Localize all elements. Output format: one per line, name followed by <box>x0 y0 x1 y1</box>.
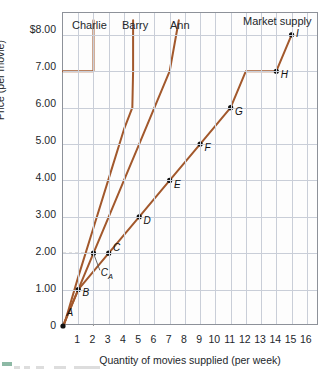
chart-figure: Price (per movie) $8.00 7.00 6.00 5.00 4… <box>0 0 326 374</box>
curve-label-ann: Ann <box>170 20 190 31</box>
y-tick-label: 4.00 <box>8 172 56 183</box>
gridline-vertical <box>292 13 293 324</box>
y-tick-label: $8.00 <box>8 24 56 35</box>
gridline-horizontal <box>63 290 317 291</box>
point-label-f: F <box>204 143 210 153</box>
gridline-horizontal <box>63 108 317 109</box>
page-artifact-text <box>14 366 100 369</box>
data-point-a <box>60 323 65 328</box>
x-tick-label: 16 <box>296 334 316 345</box>
y-tick-label: 1.00 <box>8 283 56 294</box>
gridline-vertical <box>185 13 186 324</box>
curve-label-charlie: Charlie <box>72 20 107 31</box>
gridline-vertical <box>261 13 262 324</box>
gridline-vertical <box>246 13 247 324</box>
y-tick-label: 2.00 <box>8 246 56 257</box>
gridline-vertical <box>139 13 140 324</box>
gridline-horizontal <box>63 144 317 145</box>
gridline-horizontal <box>63 35 317 36</box>
point-label-b: B <box>83 288 90 298</box>
gridline-vertical <box>154 13 155 324</box>
gridline-horizontal <box>63 253 317 254</box>
gridline-vertical <box>276 13 277 324</box>
gridline-vertical <box>215 13 216 324</box>
gridline-horizontal <box>63 71 317 72</box>
y-tick-label: 7.00 <box>8 61 56 72</box>
gridline-horizontal <box>63 180 317 181</box>
y-tick-label: 6.00 <box>8 98 56 109</box>
y-tick-label: 5.00 <box>8 135 56 146</box>
point-label-e: E <box>174 180 181 190</box>
x-axis-title: Quantity of movies supplied (per week) <box>62 354 318 366</box>
curve-ann <box>63 20 179 326</box>
gridline-vertical <box>200 13 201 324</box>
y-tick-label: 0 <box>8 320 56 331</box>
point-label-i: I <box>296 29 299 39</box>
y-axis-title: Price (per movie) <box>0 0 6 120</box>
gridline-vertical <box>78 13 79 324</box>
gridline-vertical <box>170 13 171 324</box>
curve-label-barry: Barry <box>122 20 148 31</box>
curve-label-market-supply: Market supply <box>243 16 311 27</box>
point-label-c-a: CA <box>101 268 113 282</box>
point-label-c: C <box>113 243 120 253</box>
y-tick-label: 3.00 <box>8 209 56 220</box>
curve-barry <box>64 20 133 326</box>
page-artifact <box>2 362 12 366</box>
gridline-vertical <box>124 13 125 324</box>
gridline-horizontal <box>63 217 317 218</box>
point-label-h: H <box>281 70 288 80</box>
point-label-g: G <box>235 107 243 117</box>
point-label-a: A <box>67 308 74 318</box>
gridline-vertical <box>231 13 232 324</box>
point-label-d: D <box>144 216 151 226</box>
gridline-vertical <box>307 13 308 324</box>
gridline-vertical <box>93 13 94 324</box>
